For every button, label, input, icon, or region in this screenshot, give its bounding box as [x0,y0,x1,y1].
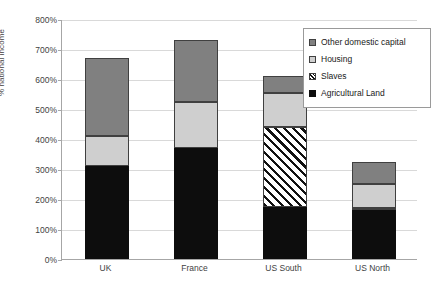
y-axis-tick-label: 100% [1,225,57,235]
bar-segment-house[interactable] [174,102,218,148]
y-axis-tick [58,230,62,231]
x-axis-tick-label: US North [328,263,418,273]
y-axis-tick-label: 500% [1,105,57,115]
legend-swatch-other-domestic-capital [309,39,316,46]
y-axis-tick-label: 300% [1,165,57,175]
bar-segment-agri[interactable] [263,207,307,260]
bar-segment-house[interactable] [85,136,129,166]
bar-segment-house[interactable] [263,93,307,128]
legend-label: Agricultural Land [321,89,385,98]
legend-swatch-agricultural-land [309,90,316,97]
legend-swatch-housing [309,56,316,63]
y-axis-tick [58,200,62,201]
legend-item-slaves[interactable]: Slaves [309,68,426,85]
y-axis-tick-labels: 800%700%600%500%400%300%200%100%0% [0,20,57,260]
y-axis-tick [58,20,62,21]
y-axis-tick [58,140,62,141]
legend-item-housing[interactable]: Housing [309,51,426,68]
legend-label: Other domestic capital [321,38,406,47]
bar-segment-house[interactable] [352,184,396,208]
chart-legend: Other domestic capital Housing Slaves Ag… [303,28,431,108]
bar-segment-agri[interactable] [174,148,218,259]
y-axis-tick [58,260,62,261]
bar-segment-agri[interactable] [352,210,396,260]
legend-item-agricultural-land[interactable]: Agricultural Land [309,85,426,102]
x-axis-tick-label: France [150,263,240,273]
bar-segment-other[interactable] [263,76,307,93]
y-axis-tick-label: 200% [1,195,57,205]
bar-segment-agri[interactable] [85,166,129,259]
bar-segment-other[interactable] [85,58,129,136]
legend-label: Slaves [321,72,347,81]
x-axis-tick-label: UK [61,263,151,273]
y-axis-tick [58,110,62,111]
y-axis-tick [58,80,62,81]
gridline [62,20,417,21]
y-axis-tick-label: 800% [1,15,57,25]
bar-segment-other[interactable] [174,40,218,102]
stacked-bar-chart: % national income 800%700%600%500%400%30… [0,0,439,288]
y-axis-tick-label: 700% [1,45,57,55]
bar-segment-slaves[interactable] [263,127,307,207]
y-axis-tick-label: 400% [1,135,57,145]
bar-segment-other[interactable] [352,162,396,185]
y-axis-tick-label: 0% [1,255,57,265]
y-axis-tick [58,170,62,171]
y-axis-tick [58,50,62,51]
legend-swatch-slaves [309,73,316,80]
x-axis-tick-label: US South [239,263,329,273]
legend-item-other-domestic-capital[interactable]: Other domestic capital [309,34,426,51]
legend-label: Housing [321,55,352,64]
y-axis-tick-label: 600% [1,75,57,85]
